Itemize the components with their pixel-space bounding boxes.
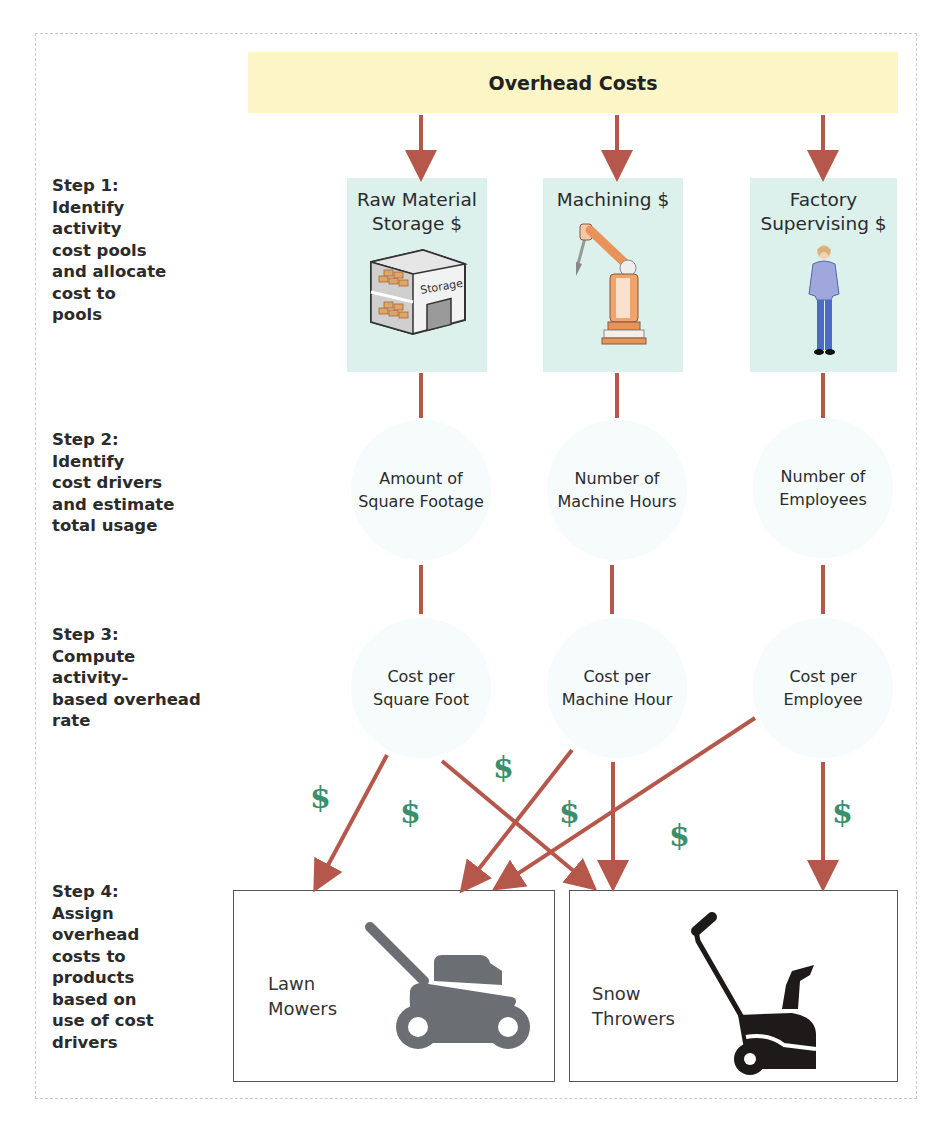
dollar-sign-icon: $ [493, 750, 514, 785]
dollar-sign-icon: $ [669, 818, 690, 853]
arrow-employee-to-lawn-mowers [502, 718, 755, 884]
dollar-sign-icon: $ [400, 795, 421, 830]
dollar-sign-icon: $ [310, 780, 331, 815]
flow-arrows [0, 0, 952, 1127]
dollar-sign-icon: $ [559, 795, 580, 830]
arrow-machine-to-lawn-mowers [467, 750, 572, 884]
arrow-sqft-to-lawn-mowers [319, 755, 387, 882]
dollar-sign-icon: $ [832, 795, 853, 830]
